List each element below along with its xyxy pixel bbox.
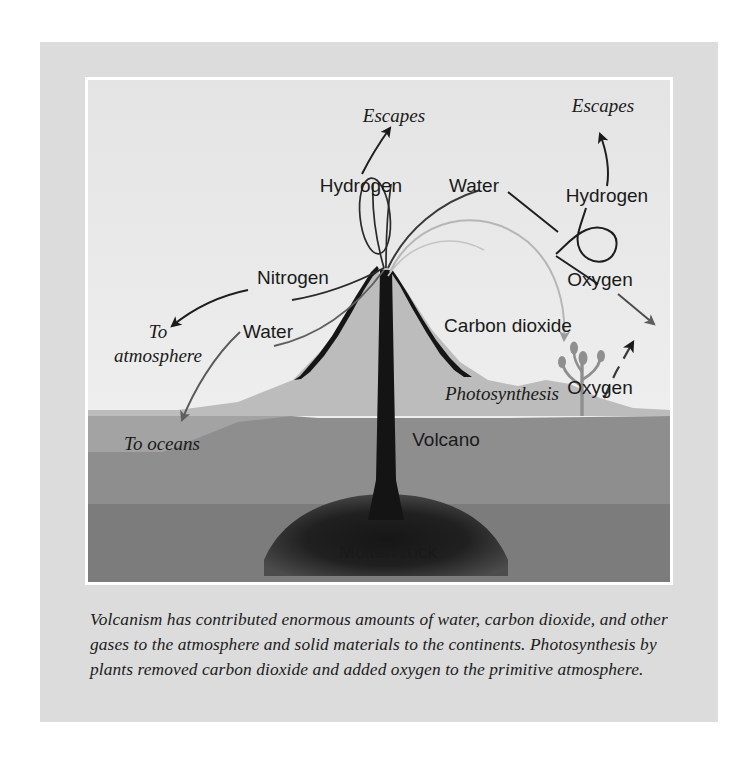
figure-page: Escapes Escapes Hydrogen Hydrogen Water … (0, 0, 753, 774)
label-oxygen-upper: Oxygen (567, 269, 632, 290)
diagram-svg: Escapes Escapes Hydrogen Hydrogen Water … (88, 80, 670, 582)
label-escapes-left: Escapes (362, 105, 425, 126)
illustration: Escapes Escapes Hydrogen Hydrogen Water … (88, 80, 670, 582)
label-to-atmosphere-line1: To (149, 321, 167, 342)
label-to-atmosphere-line2: atmosphere (114, 345, 202, 366)
label-water-left: Water (243, 321, 294, 342)
label-water-right: Water (449, 175, 500, 196)
label-volcano: Volcano (412, 429, 480, 450)
label-hydrogen-center: Hydrogen (320, 175, 402, 196)
label-oxygen-lower: Oxygen (567, 377, 632, 398)
figure-caption: Volcanism has contributed enormous amoun… (90, 607, 680, 682)
label-carbon-dioxide: Carbon dioxide (444, 315, 572, 336)
label-hydrogen-right: Hydrogen (566, 185, 648, 206)
illustration-frame: Escapes Escapes Hydrogen Hydrogen Water … (85, 77, 673, 585)
figure-panel: Escapes Escapes Hydrogen Hydrogen Water … (40, 42, 718, 722)
label-molten-rock: Molten rock (339, 541, 438, 562)
label-escapes-right: Escapes (571, 95, 634, 116)
label-to-oceans: To oceans (124, 433, 200, 454)
label-nitrogen: Nitrogen (257, 267, 329, 288)
label-photosynthesis: Photosynthesis (444, 383, 559, 404)
